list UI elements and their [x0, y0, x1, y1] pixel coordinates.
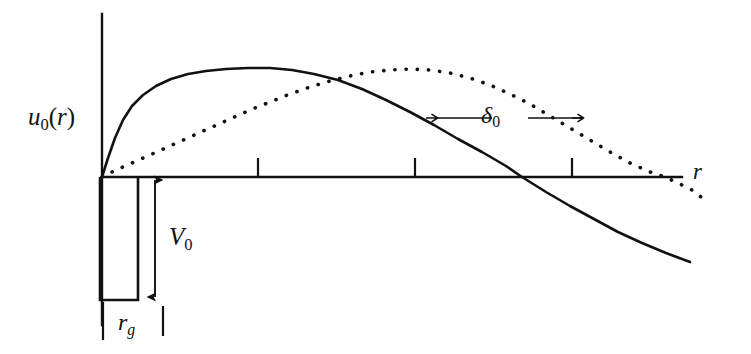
phase-shift-label: δ0	[481, 103, 500, 130]
core-radius-label-subscript: g	[127, 321, 135, 338]
well-depth-label: V0	[169, 224, 193, 253]
x-axis-label: r	[693, 160, 702, 183]
y-axis-label-subscript: 0	[41, 115, 49, 134]
figure-canvas	[0, 0, 751, 354]
x-axis-ticks	[258, 158, 572, 177]
core-radius-label: rg	[118, 310, 135, 338]
curve-u0-dotted	[102, 69, 704, 200]
potential-well	[100, 177, 138, 300]
well-depth-label-v: V	[169, 223, 184, 250]
y-axis-label: u0(r)	[28, 104, 75, 133]
y-axis-label-arg-r: r	[57, 103, 67, 130]
y-axis-label-u: u	[28, 103, 41, 130]
well-depth-label-subscript: 0	[184, 235, 192, 254]
phase-shift-label-subscript: 0	[492, 113, 500, 130]
y-axis-label-arg-close: )	[67, 103, 75, 130]
axis-group	[102, 14, 682, 325]
well-outline	[100, 177, 138, 300]
core-radius-label-r: r	[118, 309, 127, 335]
y-axis-label-arg: (	[49, 103, 57, 130]
figure-root: u0(r) r V0 rg δ0	[0, 0, 751, 354]
phase-shift-label-delta: δ	[481, 102, 492, 128]
